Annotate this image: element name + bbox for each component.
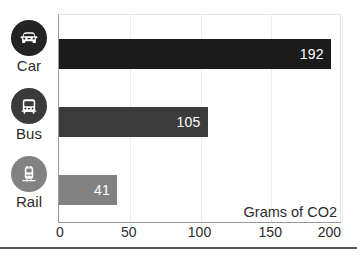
x-axis-line — [58, 222, 341, 223]
x-tick-label-150: 150 — [259, 224, 282, 240]
bar-value-car: 192 — [300, 47, 331, 61]
category-label-car: Car — [0, 57, 58, 75]
category-car: Car — [0, 20, 58, 75]
bar-value-bus: 105 — [177, 115, 208, 129]
category-bus: Bus — [0, 88, 58, 143]
category-label-rail: Rail — [0, 193, 58, 211]
train-icon — [11, 156, 47, 192]
bus-icon — [11, 88, 47, 124]
category-label-bus: Bus — [0, 125, 58, 143]
category-axis: Car — [0, 0, 58, 232]
plot-area: 192 105 41 Grams of CO2 — [58, 14, 341, 222]
car-icon — [11, 20, 47, 56]
x-axis-title: Grams of CO2 — [244, 204, 337, 220]
bar-car: 192 — [59, 39, 331, 69]
category-rail: Rail — [0, 156, 58, 211]
x-tick-label-0: 0 — [56, 224, 64, 240]
bar-bus: 105 — [59, 107, 208, 137]
footer-divider — [0, 247, 357, 249]
x-axis-tick-labels: 050100150200 — [58, 224, 341, 244]
x-tick-label-100: 100 — [188, 224, 211, 240]
x-tick-label-50: 50 — [121, 224, 137, 240]
bar-value-rail: 41 — [94, 183, 117, 197]
gridline-200 — [342, 15, 343, 222]
co2-emissions-bar-chart: Car — [0, 0, 357, 255]
x-tick-label-200: 200 — [318, 224, 341, 240]
bar-rail: 41 — [59, 175, 117, 205]
